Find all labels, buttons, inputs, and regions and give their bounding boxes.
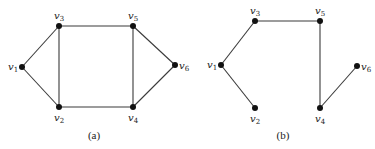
node-v5	[130, 23, 136, 29]
node-label-v3: v3	[54, 10, 64, 23]
graph-a: v1v2v3v4v5v6(a)	[8, 10, 190, 142]
node-label-v5: v5	[128, 10, 138, 23]
node-v6	[354, 63, 360, 69]
node-label-v2: v2	[54, 112, 64, 125]
caption-a: (a)	[88, 129, 101, 142]
node-label-v1: v1	[207, 59, 217, 72]
node-label-v5: v5	[315, 5, 325, 18]
node-v4	[317, 105, 323, 111]
graph-b: v1v2v3v4v5v6(b)	[207, 5, 372, 142]
edge-v1-v3	[221, 21, 255, 65]
node-v4	[130, 104, 136, 110]
node-label-v1: v1	[8, 61, 18, 74]
node-v2	[56, 104, 62, 110]
graph-figure: v1v2v3v4v5v6(a) v1v2v3v4v5v6(b)	[0, 0, 375, 149]
node-label-v6: v6	[361, 61, 372, 74]
node-v1	[218, 62, 224, 68]
node-label-v4: v4	[315, 113, 326, 126]
edge-v4-v6	[320, 66, 357, 108]
node-label-v6: v6	[179, 60, 190, 73]
node-v2	[252, 105, 258, 111]
node-v3	[252, 18, 258, 24]
edge-v1-v3	[22, 26, 59, 67]
node-v3	[56, 23, 62, 29]
edge-v5-v6	[133, 26, 175, 65]
node-label-v4: v4	[128, 112, 139, 125]
edge-v1-v2	[221, 65, 255, 108]
node-label-v2: v2	[250, 113, 260, 126]
node-label-v3: v3	[250, 5, 260, 18]
edge-v1-v2	[22, 67, 59, 107]
node-v1	[19, 64, 25, 70]
node-v5	[317, 18, 323, 24]
node-v6	[172, 62, 178, 68]
edge-v6-v4	[133, 65, 175, 107]
caption-b: (b)	[277, 129, 290, 142]
